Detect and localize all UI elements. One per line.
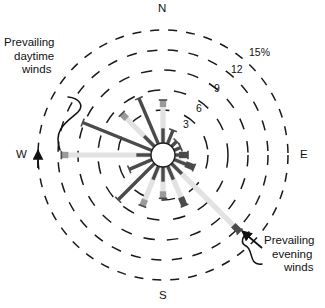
cardinal-north: N (158, 2, 166, 16)
annotation-evening-line-2: evening (264, 248, 315, 262)
petal-tip (233, 225, 239, 231)
annotation-evening-line-3: winds (264, 261, 315, 275)
petal-group (61, 97, 242, 235)
wind-petal (159, 100, 167, 143)
annotation-evening-line-1: Prevailing (264, 234, 315, 248)
annotation-prevailing-evening-winds: Prevailing evening winds (264, 234, 315, 275)
petal-tip (181, 197, 185, 205)
wind-petal (119, 111, 155, 147)
petal-tip (142, 200, 145, 206)
rose-hub (151, 143, 175, 167)
petal-tip (122, 114, 127, 119)
wind-petal (139, 166, 159, 207)
petal-shaft (174, 148, 181, 151)
annotation-prevailing-daytime-winds: Prevailing daytime winds (4, 36, 55, 77)
annotation-daytime-line-3: winds (4, 63, 55, 77)
ring-label-15: 15% (249, 46, 270, 58)
petal-shaft (171, 141, 176, 146)
wind-rose-figure: N S E W 15% 12 9 6 3 Prevailing daytime … (0, 0, 325, 308)
wind-petal (159, 167, 167, 198)
annotation-daytime-line-1: Prevailing (4, 36, 55, 50)
cardinal-south: S (159, 289, 167, 303)
wind-petal (61, 151, 151, 159)
petal-tip (186, 164, 194, 167)
annotation-daytime-line-2: daytime (4, 50, 55, 64)
cardinal-west: W (16, 148, 27, 162)
ring-label-3: 3 (183, 118, 189, 130)
ring-label-6: 6 (196, 102, 202, 114)
wind-petal (171, 138, 179, 146)
petal-shaft (167, 130, 172, 144)
ring-label-12: 12 (231, 63, 243, 75)
cardinal-east: E (300, 148, 308, 162)
ring-label-9: 9 (214, 82, 220, 94)
